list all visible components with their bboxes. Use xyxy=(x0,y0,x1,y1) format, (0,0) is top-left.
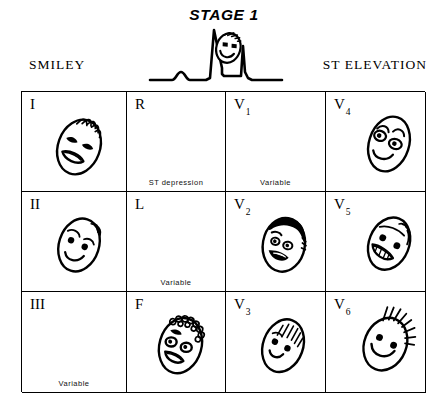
lead-label: II xyxy=(30,197,40,212)
grid-cell-lead-V3[interactable]: V3 xyxy=(226,292,326,393)
grid-cell-lead-V1[interactable]: V1 Variable xyxy=(226,92,326,192)
lead-label: V5 xyxy=(334,197,350,216)
lead-label: V2 xyxy=(234,197,250,216)
smiley-axis-label: SMILEY xyxy=(29,57,85,73)
lead-subscript: 4 xyxy=(346,107,351,117)
lead-label: III xyxy=(30,297,45,312)
lead-label: V6 xyxy=(334,297,350,316)
cell-note: Variable xyxy=(22,379,126,388)
grid-cell-lead-R[interactable]: R ST depression xyxy=(127,92,226,192)
smiley-face-I xyxy=(45,110,113,184)
smiley-face-V5 xyxy=(356,205,424,283)
cell-note: Variable xyxy=(226,178,325,187)
smiley-face-V3 xyxy=(250,306,318,386)
st-elevation-axis-label: ST ELEVATION xyxy=(323,57,427,73)
lead-label: F xyxy=(135,297,143,312)
lead-subscript: 1 xyxy=(246,107,251,117)
smiley-face-V2 xyxy=(250,205,320,283)
grid-cell-lead-II[interactable]: II xyxy=(22,192,127,292)
grid-cell-lead-V5[interactable]: V5 xyxy=(326,192,426,292)
stage-title: STAGE 1 xyxy=(0,6,448,24)
lead-subscript: 5 xyxy=(346,207,351,217)
lead-subscript: 6 xyxy=(346,307,351,317)
cell-note: ST depression xyxy=(127,178,225,187)
lead-label: L xyxy=(135,197,144,212)
grid-cell-lead-III[interactable]: III Variable xyxy=(22,292,127,393)
lead-label: V3 xyxy=(234,297,250,316)
lead-label: R xyxy=(135,97,145,112)
lead-grid: I R ST depression V1 Variable V4 xyxy=(21,91,425,392)
lead-label: V4 xyxy=(334,97,350,116)
grid-cell-lead-F[interactable]: F xyxy=(127,292,226,393)
smiley-face-V6 xyxy=(353,302,425,384)
smiley-face-F xyxy=(146,302,220,386)
grid-cell-lead-V6[interactable]: V6 xyxy=(326,292,426,393)
grid-cell-lead-V2[interactable]: V2 xyxy=(226,192,326,292)
cell-note: Variable xyxy=(127,278,225,287)
lead-label: I xyxy=(30,97,35,112)
lead-label: V1 xyxy=(234,97,250,116)
grid-cell-lead-I[interactable]: I xyxy=(22,92,127,192)
grid-cell-lead-V4[interactable]: V4 xyxy=(326,92,426,192)
smiley-face-II xyxy=(46,207,112,283)
grid-cell-lead-L[interactable]: L Variable xyxy=(127,192,226,292)
ecg-waveform-with-face-icon xyxy=(148,24,284,86)
smiley-face-V4 xyxy=(356,105,422,183)
